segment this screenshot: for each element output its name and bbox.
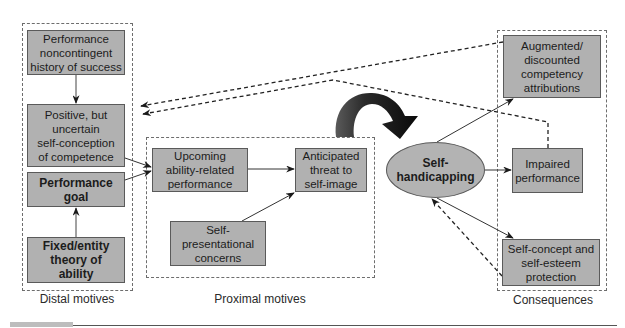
consequences-label: Consequences	[493, 293, 613, 307]
node-self-esteem-protection: Self-concept and self-esteem protection	[502, 239, 600, 286]
curved-arrow-threat-to-handicapping	[336, 93, 418, 139]
self-handicapping-diagram: Performance noncontingent history of suc…	[0, 0, 625, 328]
node-anticipated-threat: Anticipated threat to self-image	[295, 148, 367, 192]
node-performance-goal: Performance goal	[27, 172, 125, 207]
node-entity-theory: Fixed/entity theory of ability	[27, 237, 125, 283]
dashed-arrow-protection-to-handicapping	[432, 199, 502, 276]
node-competency-attributions: Augmented/ discounted competency attribu…	[503, 35, 601, 98]
distal-motives-label: Distal motives	[17, 292, 137, 306]
dashed-arrow-attributions-to-self-conception	[141, 42, 503, 106]
figure-rule-accent	[10, 322, 73, 327]
node-self-handicapping: Self- handicapping	[386, 142, 485, 198]
node-impaired-performance: Impaired performance	[512, 148, 583, 193]
node-performance-history: Performance noncontingent history of suc…	[27, 30, 125, 75]
node-uncertain-self-conception: Positive, but uncertain self-conception …	[27, 104, 125, 167]
figure-rule-line	[73, 325, 617, 326]
node-self-presentational: Self- presentational concerns	[170, 221, 266, 266]
proximal-motives-label: Proximal motives	[200, 292, 320, 306]
node-upcoming-performance: Upcoming ability-related performance	[152, 148, 248, 192]
